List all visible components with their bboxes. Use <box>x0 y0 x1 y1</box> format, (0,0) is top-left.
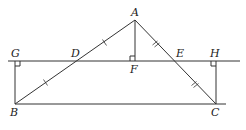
right-angle-h-icon <box>211 61 216 66</box>
double-tick-ae-icon <box>153 41 160 47</box>
label-b: B <box>9 106 18 119</box>
right-angle-f-icon <box>130 56 135 61</box>
right-angle-g-icon <box>15 61 20 66</box>
segment-ac <box>135 20 216 104</box>
label-g: G <box>11 47 20 60</box>
tick-db-icon <box>44 80 48 86</box>
double-tick-ec-icon <box>192 82 199 88</box>
label-c: C <box>211 106 220 119</box>
label-d: D <box>70 47 80 60</box>
geometry-diagram: A G D F E H B C <box>0 0 246 130</box>
label-h: H <box>209 47 220 60</box>
segment-ab <box>15 20 135 104</box>
label-a: A <box>130 6 139 19</box>
label-e: E <box>175 47 184 60</box>
label-f: F <box>129 63 138 76</box>
